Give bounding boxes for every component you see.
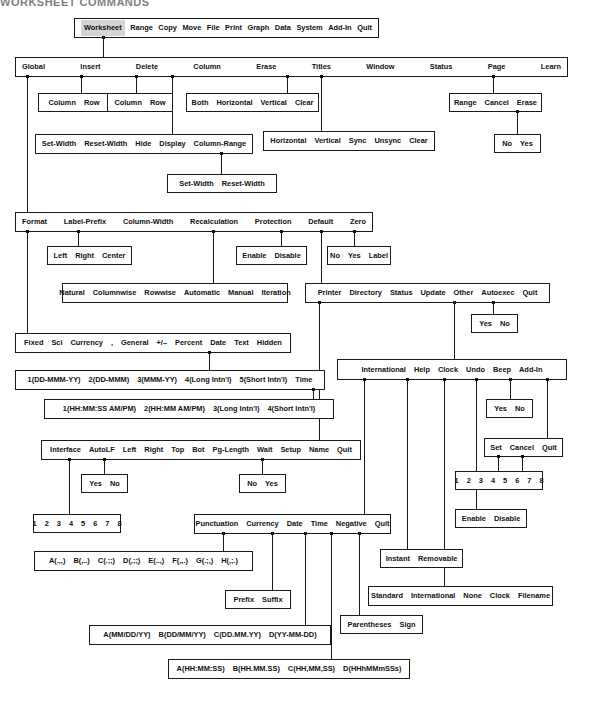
window-menu-box[interactable]: Horizontal Vertical Sync Unsync Clear: [263, 131, 435, 151]
international-menu-box[interactable]: Punctuation Currency Date Time Negative …: [194, 514, 391, 534]
autoexec-item-yes[interactable]: Yes: [475, 320, 496, 327]
window-menu-item-horizontal[interactable]: Horizontal: [266, 137, 310, 144]
main-menu-item-range[interactable]: Range: [130, 24, 153, 31]
addin-item-set[interactable]: Set: [486, 444, 506, 451]
worksheet-menu-box[interactable]: Global Insert Delete Column Erase Titles…: [15, 57, 568, 77]
punctuation-item-a[interactable]: A(.,,): [45, 557, 69, 564]
main-menu-item-data[interactable]: Data: [275, 24, 291, 31]
column-menu-item-hide[interactable]: Hide: [131, 140, 155, 147]
beep-item-yes[interactable]: Yes: [490, 405, 511, 412]
other-item-help[interactable]: Help: [410, 366, 434, 373]
titles-menu-item-both[interactable]: Both: [188, 99, 213, 106]
recalculation-item-columnwise[interactable]: Columnwise: [89, 289, 141, 296]
printer-item-bot[interactable]: Bot: [188, 446, 208, 453]
interface-item-1[interactable]: 1: [29, 520, 41, 527]
autoexec-item-no[interactable]: No: [496, 320, 514, 327]
punctuation-menu-box[interactable]: A(.,,) B(,..) C(.;;) D(,;;) E(..,) F(,,.…: [34, 551, 253, 571]
format-item-hidden[interactable]: Hidden: [253, 339, 286, 346]
addin-slot-3[interactable]: 3: [475, 477, 487, 484]
column-range-menu-box[interactable]: Set-Width Reset-Width: [167, 174, 277, 193]
main-menu-box[interactable]: Worksheet Range Copy Move File Print Gra…: [74, 18, 379, 38]
format-item-date[interactable]: Date: [206, 339, 230, 346]
wait-item-no[interactable]: No: [243, 480, 261, 487]
main-menu-item-addin[interactable]: Add-In: [328, 24, 351, 31]
punctuation-item-e[interactable]: E(..,): [144, 557, 168, 564]
learn-menu-box[interactable]: Range Cancel Erase: [449, 93, 542, 112]
undo-item-disable[interactable]: Disable: [490, 515, 524, 522]
main-menu-item-graph[interactable]: Graph: [248, 24, 270, 31]
default-item-status[interactable]: Status: [386, 289, 417, 296]
worksheet-menu-item-erase[interactable]: Erase: [256, 63, 276, 70]
learn-menu-item-range[interactable]: Range: [450, 99, 481, 106]
worksheet-menu-item-window[interactable]: Window: [366, 63, 394, 70]
intl-date-item-b[interactable]: B(DD/MM/YY): [155, 631, 210, 638]
format-menu-box[interactable]: Fixed Sci Currency , General +/– Percent…: [15, 333, 291, 353]
intl-date-item-a[interactable]: A(MM/DD/YY): [99, 631, 154, 638]
default-item-printer[interactable]: Printer: [314, 289, 346, 296]
international-item-date[interactable]: Date: [283, 520, 307, 527]
autolf-menu-box[interactable]: Yes No: [81, 474, 128, 493]
intl-date-item-d[interactable]: D(YY-MM-DD): [265, 631, 321, 638]
interface-item-5[interactable]: 5: [77, 520, 89, 527]
global-menu-item-default[interactable]: Default: [308, 218, 333, 225]
main-menu-item-file[interactable]: File: [207, 24, 220, 31]
format-item-general[interactable]: General: [117, 339, 153, 346]
other-item-beep[interactable]: Beep: [489, 366, 515, 373]
international-item-time[interactable]: Time: [307, 520, 332, 527]
column-menu-item-reset-width[interactable]: Reset-Width: [80, 140, 131, 147]
date-format-item-5[interactable]: 5(Short Intn'l): [236, 376, 292, 383]
interface-item-8[interactable]: 8: [113, 520, 125, 527]
addin-slot-2[interactable]: 2: [463, 477, 475, 484]
negative-item-sign[interactable]: Sign: [395, 621, 419, 628]
printer-item-setup[interactable]: Setup: [276, 446, 305, 453]
recalculation-item-iteration[interactable]: Iteration: [258, 289, 295, 296]
wait-menu-box[interactable]: No Yes: [239, 474, 286, 493]
titles-menu-item-horizontal[interactable]: Horizontal: [212, 99, 256, 106]
intl-time-item-c[interactable]: C(HH,MM,SS): [284, 665, 339, 672]
international-item-negative[interactable]: Negative: [332, 520, 371, 527]
clock-item-international[interactable]: International: [407, 592, 459, 599]
window-menu-item-clear[interactable]: Clear: [405, 137, 432, 144]
help-type-menu-box[interactable]: Instant Removable: [380, 549, 463, 568]
interface-item-3[interactable]: 3: [53, 520, 65, 527]
main-menu-item-system[interactable]: System: [296, 24, 322, 31]
delete-menu-box[interactable]: Column Row: [107, 93, 173, 112]
global-menu-item-format[interactable]: Format: [22, 218, 47, 225]
format-item-sci[interactable]: Sci: [47, 339, 66, 346]
other-menu-box[interactable]: International Help Clock Undo Beep Add-I…: [337, 359, 567, 380]
date-format-item-1[interactable]: 1(DD-MMM-YY): [24, 376, 85, 383]
default-item-autoexec[interactable]: Autoexec: [477, 289, 518, 296]
punctuation-item-b[interactable]: B(,..): [69, 557, 93, 564]
time-format-item-4[interactable]: 4(Short Intn'l): [263, 405, 319, 412]
international-item-quit[interactable]: Quit: [371, 520, 394, 527]
worksheet-menu-item-page[interactable]: Page: [488, 63, 506, 70]
date-format-item-2[interactable]: 2(DD-MMM): [85, 376, 134, 383]
recalculation-item-manual[interactable]: Manual: [224, 289, 257, 296]
help-item-removable[interactable]: Removable: [414, 555, 461, 562]
time-format-item-1[interactable]: 1(HH:MM:SS AM/PM): [59, 405, 140, 412]
zero-item-label[interactable]: Label: [365, 252, 392, 259]
recalculation-item-natural[interactable]: Natural: [55, 289, 88, 296]
undo-menu-box[interactable]: 1 2 3 4 5 6 7 8: [455, 471, 543, 490]
global-menu-item-recalculation[interactable]: Recalculation: [190, 218, 238, 225]
date-format-item-time[interactable]: Time: [291, 376, 316, 383]
default-item-update[interactable]: Update: [417, 289, 450, 296]
column-menu-item-column-range[interactable]: Column-Range: [190, 140, 251, 147]
format-item-percent[interactable]: Percent: [171, 339, 206, 346]
punctuation-item-h[interactable]: H(,;.): [217, 557, 242, 564]
time-format-item-3[interactable]: 3(Long Intn'l): [209, 405, 264, 412]
addin-item-cancel[interactable]: Cancel: [506, 444, 538, 451]
printer-item-top[interactable]: Top: [167, 446, 188, 453]
protection-item-enable[interactable]: Enable: [238, 252, 270, 259]
currency-menu-box[interactable]: Prefix Suffix: [225, 590, 291, 609]
global-menu-item-zero[interactable]: Zero: [350, 218, 366, 225]
insert-menu-item-column[interactable]: Column: [44, 99, 80, 106]
interface-item-7[interactable]: 7: [101, 520, 113, 527]
printer-item-left[interactable]: Left: [119, 446, 141, 453]
recalculation-item-rowwise[interactable]: Rowwise: [140, 289, 180, 296]
format-item-text[interactable]: Text: [230, 339, 253, 346]
other-item-international[interactable]: International: [358, 366, 410, 373]
default-item-other[interactable]: Other: [450, 289, 478, 296]
intl-time-item-b[interactable]: B(HH.MM.SS): [229, 665, 284, 672]
negative-menu-box[interactable]: Parentheses Sign: [340, 615, 423, 634]
